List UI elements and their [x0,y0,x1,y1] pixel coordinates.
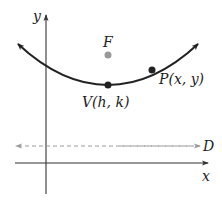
p-point [149,67,156,74]
focus-point [105,52,112,59]
p-label: P(x, y) [158,71,204,87]
parabola-diagram: y x F V(h, k) P(x, y) D [0,0,222,202]
vertex-label: V(h, k) [82,94,129,110]
x-axis-label: x [202,168,210,184]
parabola-curve [18,44,108,85]
vertex-point [105,82,112,89]
directrix-label: D [202,138,214,154]
y-axis-label: y [32,8,42,24]
focus-label: F [102,34,114,50]
